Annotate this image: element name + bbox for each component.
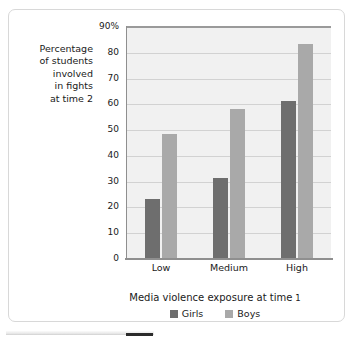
y-axis-title-line: involved xyxy=(13,68,93,80)
x-axis-tick-label: Medium xyxy=(210,262,248,273)
legend-swatch-boys xyxy=(225,310,233,318)
page-edge-strip-mark xyxy=(126,333,153,336)
y-axis-tick-label: 70 xyxy=(108,73,119,83)
y-axis-tick-label: 80 xyxy=(108,47,119,57)
y-axis-tick-label: 60 xyxy=(108,98,119,108)
bar-low-boys xyxy=(162,134,177,258)
y-axis-tick-label: 50 xyxy=(108,124,119,134)
x-axis-title-text: Media violence exposure at time xyxy=(129,292,292,303)
x-axis-tick-label: High xyxy=(286,262,308,273)
bar-chart: 90%80706050403020100 LowMediumHigh xyxy=(95,26,331,278)
y-axis-title-line: in fights xyxy=(13,80,93,92)
bar-high-boys xyxy=(298,44,313,258)
x-axis-tick-label: Low xyxy=(152,262,171,273)
legend-swatch-girls xyxy=(170,310,178,318)
legend-item-girls: Girls xyxy=(170,308,204,319)
y-axis-tick-label: 90% xyxy=(99,21,119,31)
x-axis-line xyxy=(125,258,333,260)
y-axis-title-line: at time 2 xyxy=(13,93,93,105)
y-axis-tick-label: 10 xyxy=(108,227,119,237)
x-axis-title-number: 1 xyxy=(295,293,300,303)
y-axis-ticks: 90%80706050403020100 xyxy=(95,26,123,258)
y-axis-title-line: of students xyxy=(13,55,93,67)
chart-legend: GirlsBoys xyxy=(95,308,335,319)
y-axis-tick-label: 0 xyxy=(113,253,119,263)
y-axis-tick-label: 20 xyxy=(108,201,119,211)
legend-item-boys: Boys xyxy=(225,308,260,319)
y-axis-title: Percentage of students involved in fight… xyxy=(13,43,93,105)
bar-low-girls xyxy=(145,199,160,258)
bar-medium-boys xyxy=(230,109,245,259)
y-axis-title-line: Percentage xyxy=(13,43,93,55)
y-axis-tick-label: 40 xyxy=(108,150,119,160)
figure-card: Percentage of students involved in fight… xyxy=(8,9,345,322)
x-axis-title: Media violence exposure at time1 xyxy=(95,292,335,303)
y-axis-tick-label: 30 xyxy=(108,176,119,186)
legend-label: Girls xyxy=(182,308,204,319)
bar-high-girls xyxy=(281,101,296,258)
legend-label: Boys xyxy=(237,308,260,319)
plot-area xyxy=(127,26,331,258)
bar-medium-girls xyxy=(213,178,228,258)
